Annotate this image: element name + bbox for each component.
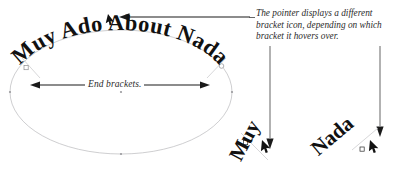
callout-note-line-1: The pointer displays a different — [256, 8, 401, 20]
callout-leader-right — [376, 46, 383, 137]
end-brackets-arrow-left — [30, 81, 85, 88]
curved-headline[interactable]: Muy Ado About Nada — [7, 10, 235, 69]
callout-note: The pointer displays a different bracket… — [256, 8, 401, 43]
curved-headline-textpath: Muy Ado About Nada — [7, 10, 235, 69]
end-brackets-arrow-right — [144, 81, 210, 88]
end-bracket-cursor-icon — [368, 140, 379, 153]
ellipse-center-node[interactable] — [120, 91, 122, 93]
ellipse-node-left[interactable] — [9, 91, 11, 93]
callout-note-line-2: bracket icon, depending on which — [256, 20, 401, 32]
callout-leader-left — [266, 46, 273, 149]
callout-arrow-top — [119, 13, 250, 21]
callout-note-line-3: bracket it hovers over. — [256, 31, 401, 43]
ellipse-node-right[interactable] — [231, 91, 233, 93]
end-brackets-label: End brackets. — [88, 79, 142, 89]
text-on-path-figure: Muy Ado About Nada End brackets. The poi… — [0, 0, 403, 180]
ellipse-node-bottom[interactable] — [120, 153, 122, 155]
